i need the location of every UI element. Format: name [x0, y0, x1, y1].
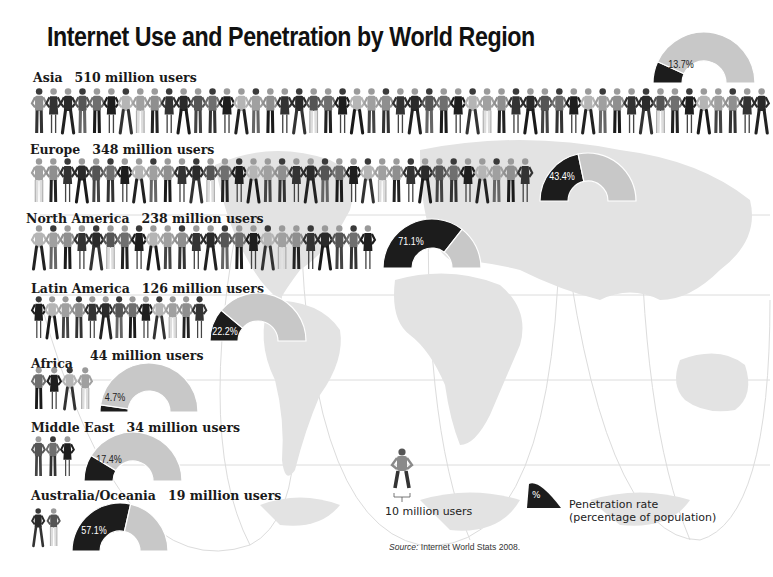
person-figure-icon	[610, 88, 624, 133]
person-figure-icon	[104, 88, 118, 133]
person-figure-icon	[112, 296, 125, 338]
person-figure-icon	[321, 88, 335, 133]
person-figure-icon	[375, 158, 389, 202]
person-figure-icon	[289, 225, 303, 269]
person-figure-icon	[581, 88, 595, 133]
person-figure-icon	[740, 88, 754, 133]
person-figure-icon	[133, 88, 147, 133]
person-figure-icon	[61, 436, 74, 476]
person-figure-icon	[166, 296, 179, 338]
person-figure-icon	[90, 88, 104, 133]
person-figure-icon	[275, 225, 289, 269]
infographic: Internet Use and Penetration by World Re…	[0, 0, 773, 577]
person-figure-icon	[75, 225, 89, 269]
pictograph-row-north-america: 71.1%	[32, 219, 481, 269]
gauge-percent-label: 4.7%	[105, 391, 126, 403]
person-figure-icon	[59, 296, 72, 338]
person-figure-icon	[361, 225, 375, 269]
person-figure-icon	[263, 88, 277, 133]
person-figure-icon	[347, 158, 361, 202]
person-figure-icon	[480, 88, 494, 133]
legend-figure-label: 10 million users	[385, 505, 472, 518]
person-figure-icon	[176, 88, 190, 133]
pictograph-row-africa: 4.7%	[32, 363, 198, 412]
person-figure-icon	[46, 225, 60, 269]
person-figure-icon	[304, 225, 318, 269]
person-figure-icon	[379, 88, 393, 133]
person-figure-icon	[139, 296, 152, 338]
person-figure-icon	[204, 158, 218, 202]
person-figure-icon	[261, 158, 275, 202]
person-figure-icon	[75, 88, 89, 133]
person-figure-icon	[32, 296, 45, 338]
person-figure-icon	[596, 88, 610, 133]
person-figure-icon	[104, 158, 118, 202]
person-figure-icon	[189, 225, 203, 269]
person-figure-icon	[278, 88, 292, 133]
person-figure-icon	[32, 436, 45, 476]
person-figure-icon	[161, 158, 175, 202]
person-figure-icon	[220, 88, 234, 133]
person-figure-icon	[350, 88, 364, 133]
penetration-gauge: 17.4%	[84, 432, 182, 481]
person-figure-icon	[146, 225, 160, 269]
penetration-gauge: 22.2%	[210, 293, 306, 341]
person-figure-icon	[275, 158, 289, 202]
person-figure-icon	[347, 225, 361, 269]
person-figure-icon	[153, 296, 166, 338]
person-figure-icon	[335, 88, 349, 133]
person-figure-icon	[261, 225, 275, 269]
penetration-gauge: 43.4%	[540, 153, 636, 201]
person-figure-icon	[175, 158, 189, 202]
person-figure-icon	[205, 88, 219, 133]
pictograph-row-europe: 43.4%	[32, 153, 636, 202]
person-figure-icon	[232, 225, 246, 269]
person-figure-icon	[697, 88, 711, 133]
legend-wedge-label: Penetration rate (percentage of populati…	[569, 498, 716, 524]
person-figure-icon	[504, 158, 518, 202]
person-figure-icon	[461, 158, 475, 202]
legend-wedge-icon: %	[525, 480, 565, 510]
gauge-percent-label: 13.7%	[668, 58, 694, 70]
person-figure-icon	[451, 88, 465, 133]
legend-wedge-symbol: %	[532, 490, 541, 500]
person-figure-icon	[422, 88, 436, 133]
person-figure-icon	[494, 88, 508, 133]
person-figure-icon	[465, 88, 479, 133]
person-figure-icon	[509, 88, 523, 133]
person-figure-icon	[624, 88, 638, 133]
person-figure-icon	[668, 88, 682, 133]
person-figure-icon	[304, 158, 318, 202]
person-figure-icon	[218, 158, 232, 202]
person-figure-icon	[318, 225, 332, 269]
person-figure-icon	[447, 158, 461, 202]
person-figure-icon	[332, 158, 346, 202]
person-figure-icon	[148, 88, 162, 133]
person-figure-icon	[361, 158, 375, 202]
person-figure-icon	[32, 225, 46, 269]
gauge-remainder-segment	[101, 363, 198, 412]
person-figure-icon	[48, 367, 61, 409]
penetration-gauge: 57.1%	[72, 503, 168, 551]
person-figure-icon	[161, 225, 175, 269]
person-figure-icon	[404, 158, 418, 202]
person-figure-icon	[126, 296, 139, 338]
person-figure-icon	[47, 436, 60, 476]
person-figure-icon	[175, 225, 189, 269]
gauge-percent-label: 71.1%	[398, 235, 424, 247]
person-figure-icon	[45, 296, 58, 338]
person-figure-icon	[61, 158, 75, 202]
person-figure-icon	[234, 88, 248, 133]
person-figure-icon	[99, 296, 112, 338]
person-figure-icon	[46, 158, 60, 202]
penetration-gauge: 4.7%	[100, 363, 198, 412]
person-figure-icon	[162, 88, 176, 133]
person-figure-icon	[639, 88, 653, 133]
person-figure-icon	[711, 88, 725, 133]
person-figure-icon	[393, 88, 407, 133]
person-figure-icon	[307, 88, 321, 133]
person-figure-icon	[490, 158, 504, 202]
person-figure-icon	[146, 158, 160, 202]
person-figure-icon	[118, 225, 132, 269]
gauge-percent-label: 57.1%	[81, 524, 107, 536]
